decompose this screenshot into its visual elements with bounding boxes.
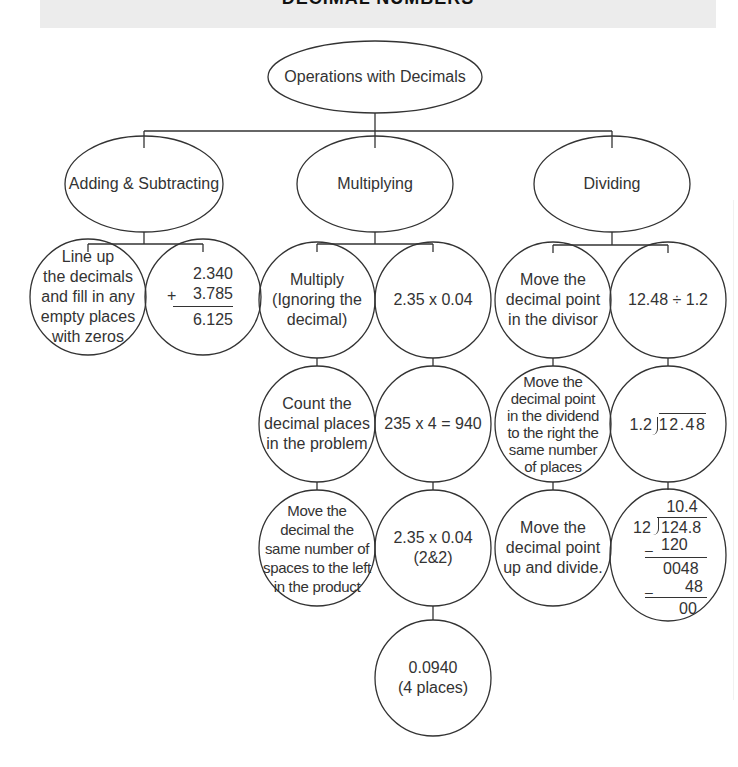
branch-label: Adding & Subtracting <box>69 174 219 194</box>
text-line: with zeros <box>41 327 135 347</box>
text-line: decimal the <box>263 520 371 539</box>
text-line: in the divisor <box>506 310 600 330</box>
text-line: Count the <box>264 394 370 414</box>
branch-multiplying: Multiplying <box>297 172 453 196</box>
ld-remainder1: 0048 <box>663 559 699 579</box>
dividend: 12.48 <box>659 413 707 435</box>
divide-step-1: Move the decimal point in the divisor <box>495 242 611 358</box>
ld-divisor: 12 <box>633 518 651 538</box>
text-line: the decimals <box>41 267 135 287</box>
root-node: Operations with Decimals <box>268 57 482 97</box>
text-line: 2.35 x 0.04 <box>393 528 472 548</box>
divide-step-3: Move the decimal point up and divide. <box>495 490 611 606</box>
page-edge <box>733 200 734 700</box>
ld-rule <box>645 557 707 558</box>
text-line: Move the <box>263 501 371 520</box>
ld-rule <box>645 597 707 598</box>
text-line: same number <box>507 441 599 458</box>
adding-step-circle: Line up the decimals and fill in any emp… <box>30 239 146 355</box>
sum: 6.125 <box>173 307 233 330</box>
text-line: Move the <box>503 518 603 538</box>
text-line: Line up <box>41 247 135 267</box>
divide-problem: 12.48 ÷ 1.2 <box>610 242 726 358</box>
minus-sign: – <box>645 582 653 602</box>
branch-adding: Adding & Subtracting <box>65 172 223 196</box>
text-line: Move the <box>506 270 600 290</box>
text-line: in the product <box>263 577 371 596</box>
text-line: decimal point <box>506 290 600 310</box>
text-line: spaces to the left <box>263 558 371 577</box>
text-line: 2.35 x 0.04 <box>393 290 472 310</box>
divide-step-2: Move the decimal point in the dividend t… <box>495 366 611 482</box>
text-line: (2&2) <box>393 548 472 568</box>
text-line: and fill in any <box>41 287 135 307</box>
addend-2: 3.785 <box>193 285 233 302</box>
plus-sign: + <box>167 286 176 306</box>
branch-label: Multiplying <box>337 174 413 194</box>
text-line: Move the <box>507 373 599 390</box>
text-line: in the dividend <box>507 407 599 424</box>
root-label: Operations with Decimals <box>284 67 465 87</box>
text-line: Multiply <box>272 270 362 290</box>
branch-label: Dividing <box>584 174 641 194</box>
addend-1: 2.340 <box>173 264 233 284</box>
text-line: 12.48 ÷ 1.2 <box>628 290 708 310</box>
divide-setup: 1.2 12.48 <box>610 366 726 482</box>
text-line: 0.0940 <box>398 658 468 678</box>
ld-remainder2: 00 <box>679 599 697 619</box>
multiply-step-1: Multiply (Ignoring the decimal) <box>259 242 375 358</box>
multiply-example-2: 235 x 4 = 940 <box>375 366 491 482</box>
multiply-example-3: 2.35 x 0.04 (2&2) <box>375 490 491 606</box>
text-line: 235 x 4 = 940 <box>384 414 481 434</box>
multiply-result: 0.0940 (4 places) <box>375 620 491 736</box>
text-line: decimal) <box>272 310 362 330</box>
multiply-step-2: Count the decimal places in the problem <box>259 366 375 482</box>
long-division: 10.4 12 124.8 – 120 0048 – 48 00 <box>610 489 726 621</box>
text-line: (Ignoring the <box>272 290 362 310</box>
text-line: (4 places) <box>398 678 468 698</box>
division-bracket <box>652 417 658 435</box>
divisor: 1.2 <box>630 415 652 435</box>
text-line: up and divide. <box>503 558 603 578</box>
multiply-step-3: Move the decimal the same number of spac… <box>259 490 375 606</box>
text-line: decimal point <box>507 390 599 407</box>
ld-step1: 120 <box>661 535 688 555</box>
quotient: 10.4 <box>657 497 707 517</box>
multiply-example-1: 2.35 x 0.04 <box>375 242 491 358</box>
text-line: same number of <box>263 539 371 558</box>
text-line: decimal point <box>503 538 603 558</box>
adding-example-circle: 2.340 + 3.785 6.125 <box>145 239 261 355</box>
ld-step2: 48 <box>685 577 703 597</box>
text-line: of places <box>507 458 599 475</box>
division-bracket <box>653 517 659 535</box>
branch-dividing: Dividing <box>534 172 690 196</box>
text-line: to the right the <box>507 424 599 441</box>
text-line: in the problem <box>264 434 370 454</box>
text-line: decimal places <box>264 414 370 434</box>
text-line: empty places <box>41 307 135 327</box>
